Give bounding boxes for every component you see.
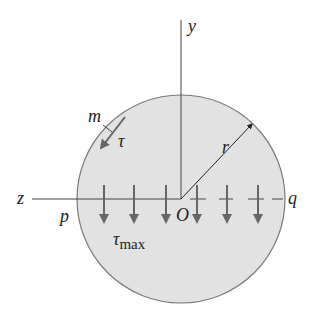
point-p-label: p: [58, 206, 69, 226]
radius-label: r: [222, 137, 230, 157]
point-q-label: q: [288, 188, 297, 208]
y-axis-label: y: [186, 16, 196, 36]
cross-section-diagram: y z O r m p q τ τmax: [0, 0, 310, 319]
origin-label: O: [176, 205, 189, 225]
z-axis-label: z: [16, 188, 24, 208]
tau-label: τ: [118, 131, 125, 151]
tau-max-subscript: max: [119, 236, 145, 252]
point-m-label: m: [88, 106, 101, 126]
